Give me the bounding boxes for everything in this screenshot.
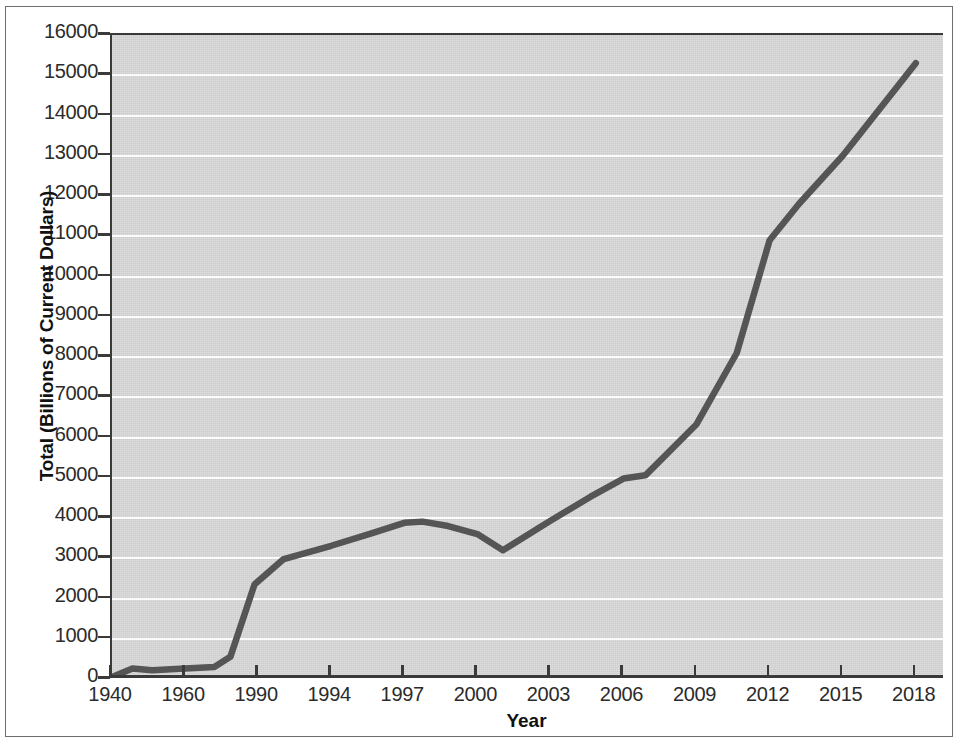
y-tick-label: 6000	[55, 423, 98, 446]
y-tick-mark	[98, 274, 110, 277]
y-tick-mark	[98, 394, 110, 397]
x-tick-mark	[109, 665, 112, 677]
y-tick-mark	[98, 515, 110, 518]
x-tick-label: 2012	[728, 683, 808, 706]
x-tick-mark	[840, 665, 843, 677]
x-tick-mark	[328, 665, 331, 677]
x-tick-mark	[913, 665, 916, 677]
x-tick-label: 1960	[143, 683, 223, 706]
y-tick-label: 9000	[55, 302, 98, 325]
x-axis-label: Year	[110, 710, 943, 732]
y-tick-mark	[98, 435, 110, 438]
x-tick-label: 1994	[289, 683, 369, 706]
y-tick-mark	[98, 113, 110, 116]
x-tick-mark	[182, 665, 185, 677]
y-tick-label: 4000	[55, 503, 98, 526]
y-tick-label: 5000	[55, 463, 98, 486]
x-tick-mark	[401, 665, 404, 677]
x-axis-line	[110, 675, 943, 678]
data-line-layer	[112, 35, 943, 677]
x-tick-mark	[474, 665, 477, 677]
data-series-line	[112, 63, 916, 677]
y-tick-label: 7000	[55, 382, 98, 405]
y-tick-mark	[98, 475, 110, 478]
y-tick-mark	[98, 72, 110, 75]
y-tick-label: 1000	[55, 624, 98, 647]
x-tick-mark	[767, 665, 770, 677]
y-tick-mark	[98, 193, 110, 196]
chart-figure: 1600015000140001300012000110001000090008…	[0, 0, 959, 750]
y-tick-label: 2000	[55, 584, 98, 607]
y-tick-mark	[98, 314, 110, 317]
plot-area	[110, 33, 943, 677]
x-tick-mark	[694, 665, 697, 677]
y-tick-mark	[98, 32, 110, 35]
y-tick-label: 8000	[55, 342, 98, 365]
x-tick-label: 2000	[435, 683, 515, 706]
x-tick-label: 1997	[362, 683, 442, 706]
x-tick-mark	[620, 665, 623, 677]
x-tick-mark	[547, 665, 550, 677]
x-tick-label: 1990	[216, 683, 296, 706]
y-tick-mark	[98, 153, 110, 156]
x-tick-mark	[255, 665, 258, 677]
y-tick-mark	[98, 354, 110, 357]
y-tick-mark	[98, 555, 110, 558]
y-tick-mark	[98, 233, 110, 236]
y-tick-mark	[98, 596, 110, 599]
y-tick-label: 3000	[55, 543, 98, 566]
x-tick-label: 1940	[70, 683, 150, 706]
y-tick-mark	[98, 636, 110, 639]
x-tick-label: 2003	[508, 683, 588, 706]
y-axis-label: Total (Billions of Current Dollars)	[36, 36, 58, 636]
x-tick-label: 2009	[655, 683, 735, 706]
x-tick-label: 2018	[874, 683, 954, 706]
x-tick-label: 2006	[581, 683, 661, 706]
x-tick-label: 2015	[801, 683, 881, 706]
